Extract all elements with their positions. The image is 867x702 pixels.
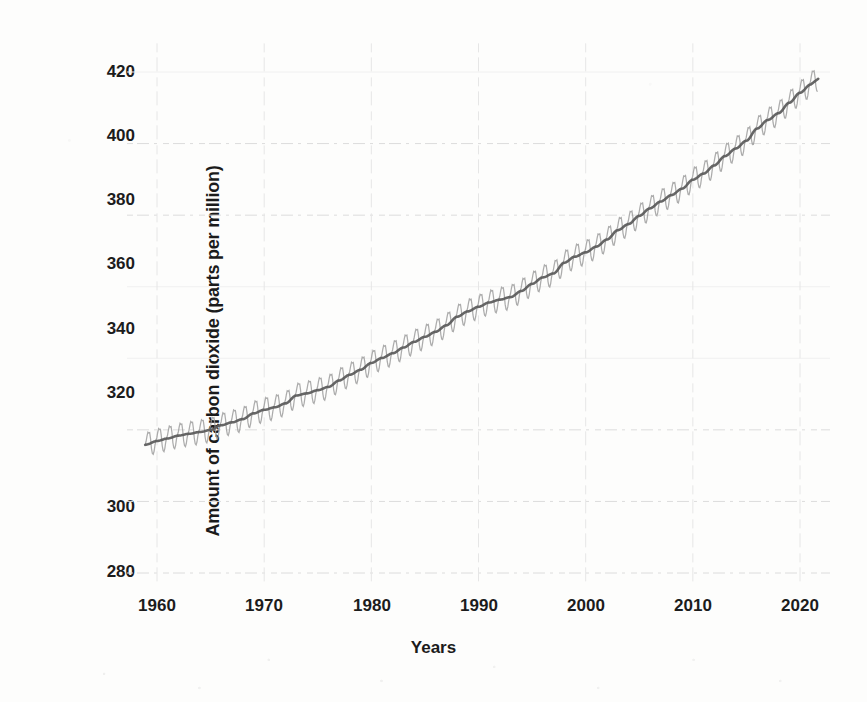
series-seasonal-sawtooth	[145, 71, 817, 455]
gridlines	[127, 43, 830, 587]
chart-figure: Amount of carbon dioxide (parts per mill…	[0, 0, 867, 702]
series-annual-trend	[145, 79, 818, 445]
plot-area	[0, 0, 867, 702]
